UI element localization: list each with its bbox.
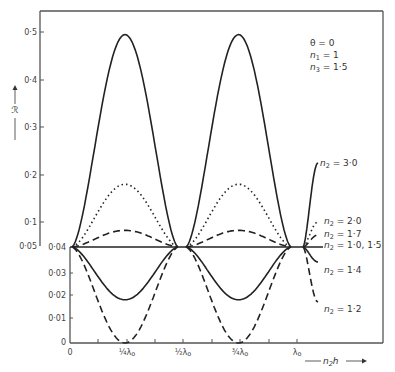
x-tick-lambda: λo	[293, 348, 302, 358]
series-n2-1.2	[72, 247, 318, 343]
label-n2-1.4: n2 = 1·4	[324, 265, 362, 277]
label-n2-2.0: n2 = 2·0	[324, 216, 362, 228]
series-labels: n2 = 3·0 n2 = 2·0 n2 = 1·7 n2 = 1·0, 1·5…	[320, 158, 381, 316]
x-axis-label: n2h	[305, 356, 367, 368]
x-tick-three-quarter: ¾λo	[232, 348, 249, 358]
plot-frame	[40, 11, 383, 343]
y-tick-0.4: 0·4	[24, 76, 37, 85]
series-n2-1.4	[72, 247, 318, 300]
arrow-up-icon	[13, 85, 18, 90]
y-tick-0.03: 0·03	[48, 269, 66, 278]
y-tick-0.01: 0·01	[48, 314, 66, 323]
y-tick-0.5: 0·5	[24, 28, 37, 37]
lower-y-tick-labels: 0·04 0·03 0·02 0·01 0	[48, 243, 66, 347]
x-tick-labels: 0 ¼λo ½λo ¾λo λo	[67, 348, 301, 358]
y-tick-0.3: 0·3	[24, 123, 37, 132]
conditions-annotation: θ = 0 n1 = 1 n3 = 1·5	[310, 38, 347, 74]
label-n2-1.2: n2 = 1·2	[324, 304, 361, 316]
svg-text:n2h: n2h	[323, 356, 339, 368]
x-tick-0: 0	[67, 348, 72, 357]
y-tick-0.05: 0·05	[19, 242, 37, 251]
y-tick-0.02: 0·02	[48, 291, 66, 300]
y-tick-0.2: 0·2	[24, 171, 37, 180]
curves	[72, 35, 318, 343]
y-tick-0.1: 0·1	[24, 218, 37, 227]
label-n2-3.0: n2 = 3·0	[320, 158, 358, 170]
y-tick-0.04: 0·04	[48, 243, 66, 252]
n3-label: n3 = 1·5	[310, 62, 347, 74]
label-n2-1.0-1.5: n2 = 1·0, 1·5	[324, 240, 381, 252]
reflectance-chart: 0·5 0·4 0·3 0·2 0·1 0·05 0·04 0·03 0·02 …	[0, 0, 395, 372]
theta-label: θ = 0	[310, 38, 335, 48]
upper-y-tick-labels: 0·5 0·4 0·3 0·2 0·1 0·05	[19, 28, 37, 251]
y-tick-0: 0	[61, 338, 66, 347]
series-n2-3.0	[72, 35, 318, 247]
svg-text:ℛ: ℛ	[11, 105, 18, 115]
series-n2-1.7	[72, 230, 318, 247]
arrow-right-icon	[362, 359, 367, 364]
y-axis-label: ℛ	[11, 85, 18, 140]
x-tick-half: ½λo	[175, 348, 192, 358]
x-tick-quarter: ¼λo	[119, 348, 136, 358]
n1-label: n1 = 1	[310, 50, 339, 62]
